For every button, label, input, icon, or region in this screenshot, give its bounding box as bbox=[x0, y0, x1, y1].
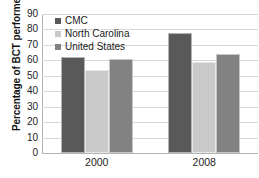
square-swatch-icon bbox=[55, 44, 61, 50]
bar-cmc-2008[interactable] bbox=[168, 33, 192, 153]
x-axis-tick-labels: 20002008 bbox=[43, 156, 258, 168]
y-axis-tick: 90 bbox=[27, 9, 38, 19]
y-axis-tick: 0 bbox=[32, 148, 38, 158]
bar-united-states-2000[interactable] bbox=[109, 59, 133, 153]
x-axis-tick-2000: 2000 bbox=[43, 156, 151, 168]
legend-item-north-carolina[interactable]: North Carolina bbox=[55, 27, 129, 40]
legend-item-cmc[interactable]: CMC bbox=[55, 14, 129, 27]
bar-slot bbox=[168, 14, 192, 153]
y-axis-tick-labels: 9080706050403020100 bbox=[18, 14, 38, 153]
bar-north-carolina-2000[interactable] bbox=[85, 70, 109, 153]
legend-label: CMC bbox=[65, 15, 88, 26]
legend-label: North Carolina bbox=[65, 28, 129, 39]
legend-label: United States bbox=[65, 41, 125, 52]
y-axis-tick: 40 bbox=[27, 86, 38, 96]
bar-slot bbox=[192, 14, 216, 153]
chart-legend: CMCNorth CarolinaUnited States bbox=[55, 14, 129, 53]
y-axis-tick: 30 bbox=[27, 102, 38, 112]
bar-group-2008 bbox=[151, 14, 259, 153]
gridline bbox=[42, 153, 258, 154]
square-swatch-icon bbox=[55, 18, 61, 24]
y-axis-tick: 20 bbox=[27, 117, 38, 127]
x-axis-tick-2008: 2008 bbox=[151, 156, 259, 168]
legend-item-united-states[interactable]: United States bbox=[55, 40, 129, 53]
y-axis-tick: 60 bbox=[27, 55, 38, 65]
y-axis-tick: 10 bbox=[27, 133, 38, 143]
y-axis-tick: 50 bbox=[27, 71, 38, 81]
bar-united-states-2008[interactable] bbox=[216, 54, 240, 153]
bar-north-carolina-2008[interactable] bbox=[192, 62, 216, 153]
bar-chart: Percentage of BCT performed 908070605040… bbox=[0, 0, 258, 178]
y-axis-tick: 80 bbox=[27, 24, 38, 34]
y-axis-tick: 70 bbox=[27, 40, 38, 50]
bar-slot bbox=[216, 14, 240, 153]
square-swatch-icon bbox=[55, 31, 61, 37]
bar-cmc-2000[interactable] bbox=[61, 57, 85, 153]
